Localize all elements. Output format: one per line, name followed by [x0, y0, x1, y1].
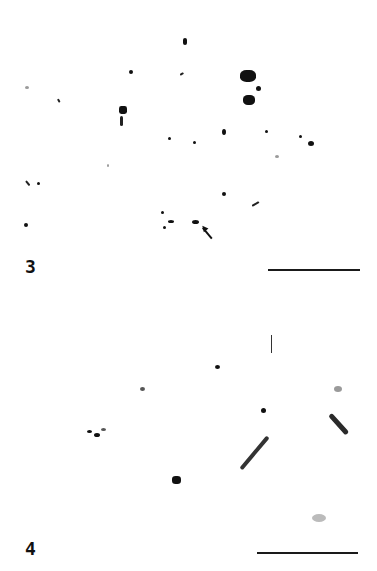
speck [334, 386, 342, 392]
chromatin-cluster [240, 70, 256, 82]
chromosome [163, 226, 166, 229]
chromosome [37, 182, 40, 185]
chromosome [308, 141, 314, 146]
chromosome [261, 408, 266, 413]
chromosome [222, 192, 226, 196]
chromosome [168, 137, 171, 140]
micrograph-panel-4: 4 [0, 290, 377, 571]
micrograph-panel-3: 3 [0, 0, 377, 290]
chromosome [161, 211, 164, 214]
chromosome [183, 38, 187, 45]
chromosome [120, 116, 123, 126]
chromosome [265, 130, 268, 133]
elongated-chromosome [239, 436, 269, 471]
chromosome [215, 365, 220, 369]
speck [101, 428, 106, 431]
chromosome [252, 201, 260, 206]
chromatin-cluster [243, 95, 255, 105]
chromosome [168, 220, 174, 223]
chromatin-cluster [172, 476, 181, 484]
chromosome [129, 70, 133, 74]
chromosome [94, 433, 100, 437]
chromosome [193, 141, 196, 144]
chromosome [57, 98, 60, 102]
chromosome [299, 135, 302, 138]
chromosome [87, 430, 92, 433]
panel-label-4: 4 [25, 538, 36, 559]
speck [25, 86, 29, 89]
chromosome [222, 129, 226, 135]
speck [140, 387, 145, 391]
scale-bar [268, 269, 360, 271]
chromosome-pair-arrowed [192, 220, 199, 224]
chromosome [24, 223, 28, 227]
scale-bar [257, 552, 358, 554]
speck [107, 164, 109, 167]
chromosome [25, 180, 30, 186]
speck [312, 514, 326, 522]
panel-label-3: 3 [25, 256, 36, 277]
speck [275, 155, 279, 158]
arrow-icon [202, 227, 212, 239]
chromatin-cluster [256, 86, 261, 91]
vertical-marker [271, 335, 272, 353]
elongated-chromosome [328, 413, 349, 436]
chromatin-cluster [119, 106, 127, 114]
chromosome [180, 72, 184, 75]
